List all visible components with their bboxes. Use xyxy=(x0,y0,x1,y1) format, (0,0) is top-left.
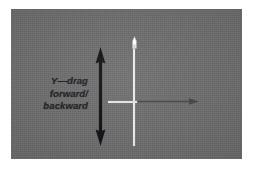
annotation-layer: Y—drag forward/ backward xyxy=(11,9,242,159)
crosshair-horizontal-icon xyxy=(108,101,137,103)
double-headed-vertical-arrow-icon xyxy=(91,45,110,148)
right-arrow-icon xyxy=(137,95,200,108)
screenshot-panel: Y—drag forward/ backward xyxy=(11,9,242,159)
mouse-pointer-icon xyxy=(130,36,139,53)
y-axis-label: Y—drag forward/ backward xyxy=(25,75,88,113)
figure-container: Y—drag forward/ backward xyxy=(0,0,254,172)
crosshair-icon xyxy=(133,39,135,146)
